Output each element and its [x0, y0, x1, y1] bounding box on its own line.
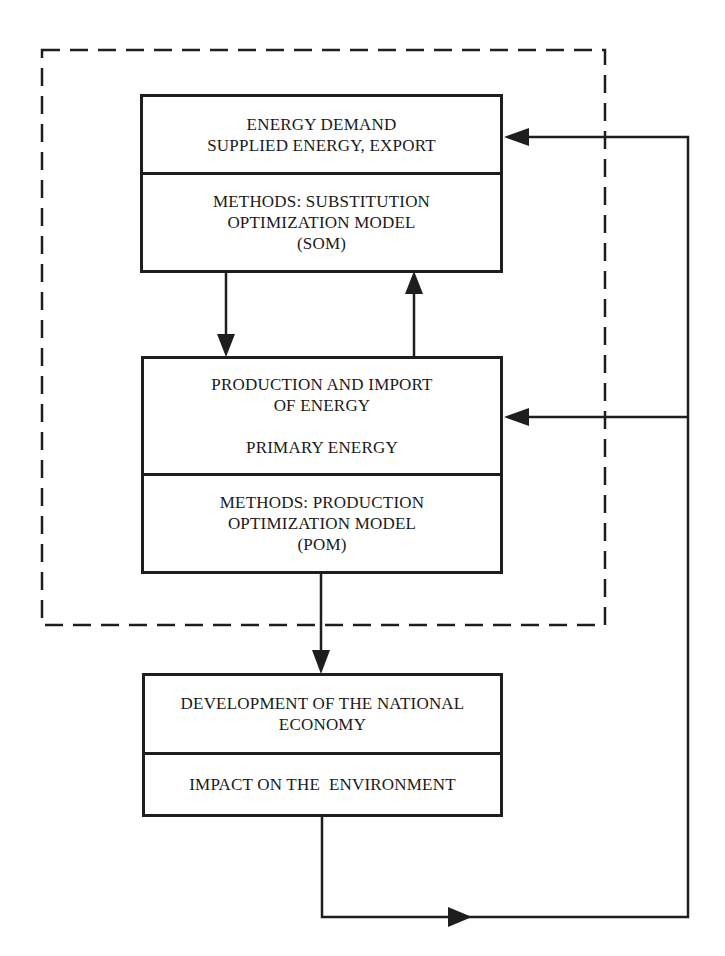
box-economy: DEVELOPMENT OF THE NATIONAL ECONOMY IMPA… — [142, 673, 503, 817]
arrow-pom-to-som-head — [405, 271, 423, 294]
text-line: METHODS: PRODUCTION — [220, 492, 425, 513]
text-line: ENERGY DEMAND — [247, 114, 397, 135]
box-pom: PRODUCTION AND IMPORT OF ENERGY PRIMARY … — [141, 356, 503, 574]
arrow-som-to-pom-head — [217, 334, 235, 357]
box-som: ENERGY DEMAND SUPPLIED ENERGY, EXPORT ME… — [140, 94, 503, 273]
feedback-arrow-to-som-head — [504, 128, 529, 146]
text-line: PRIMARY ENERGY — [246, 437, 398, 458]
text-line: PRODUCTION AND IMPORT — [211, 374, 432, 395]
text-line: SUPPLIED ENERGY, EXPORT — [207, 135, 436, 156]
feedback-arrow-to-pom-head — [504, 408, 529, 426]
text-line: (SOM) — [297, 233, 346, 254]
box-som-section-methods: METHODS: SUBSTITUTION OPTIMIZATION MODEL… — [143, 172, 500, 270]
box-pom-section-production: PRODUCTION AND IMPORT OF ENERGY PRIMARY … — [144, 359, 500, 473]
text-line: IMPACT ON THE ENVIRONMENT — [189, 774, 456, 795]
arrow-pom-to-economy-head — [312, 650, 330, 674]
text-line: OPTIMIZATION MODEL — [227, 212, 415, 233]
box-pom-section-methods: METHODS: PRODUCTION OPTIMIZATION MODEL (… — [144, 473, 500, 571]
text-line: OPTIMIZATION MODEL — [228, 513, 416, 534]
box-economy-section-impact: IMPACT ON THE ENVIRONMENT — [145, 752, 500, 814]
box-som-section-demand: ENERGY DEMAND SUPPLIED ENERGY, EXPORT — [143, 97, 500, 172]
text-line: ECONOMY — [279, 714, 366, 735]
box-economy-section-development: DEVELOPMENT OF THE NATIONAL ECONOMY — [145, 676, 500, 752]
text-line: DEVELOPMENT OF THE NATIONAL — [181, 693, 465, 714]
text-line: (POM) — [297, 534, 346, 555]
feedback-loop-bottom-arrowhead — [448, 907, 472, 927]
text-line: OF ENERGY — [274, 395, 371, 416]
text-line: METHODS: SUBSTITUTION — [213, 191, 430, 212]
